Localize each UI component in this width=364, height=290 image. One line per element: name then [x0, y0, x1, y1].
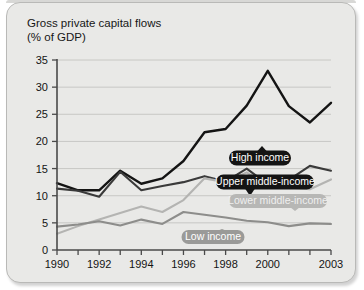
y-tick-label: 35: [36, 54, 48, 66]
y-tick-label: 10: [36, 190, 48, 202]
callout-2: Lower middle-income: [228, 194, 328, 211]
callout-label: Upper middle-income: [215, 175, 315, 187]
callout-label: Lower middle-income: [228, 194, 328, 206]
callout-label: Low income: [185, 230, 241, 242]
y-tick-label: 20: [36, 135, 48, 147]
y-tick-label: 0: [42, 244, 48, 256]
figure-root: Gross private capital flows (% of GDP) 0…: [0, 0, 364, 290]
x-tick-label: 2000: [256, 258, 280, 270]
x-tick-label: 1992: [87, 258, 111, 270]
x-tick-labels: 1990199219941996199820002003: [45, 258, 343, 270]
y-tick-labels: 05101520253035: [36, 54, 48, 256]
callout-0: High income: [229, 146, 291, 166]
y-tick-label: 30: [36, 81, 48, 93]
line-chart: 05101520253035 1990199219941996199820002…: [0, 0, 364, 290]
y-tick-label: 15: [36, 163, 48, 175]
x-tick-label: 2003: [319, 258, 343, 270]
y-tick-label: 5: [42, 217, 48, 229]
series-callouts: High incomeUpper middle-incomeLower midd…: [182, 146, 329, 244]
series-lines: [57, 71, 331, 234]
y-tick-label: 25: [36, 108, 48, 120]
callout-1: Upper middle-income: [215, 175, 315, 197]
x-tick-label: 1998: [213, 258, 237, 270]
series-line-0: [57, 71, 331, 190]
x-tick-label: 1996: [171, 258, 195, 270]
callout-3: Low income: [182, 229, 245, 244]
callout-label: High income: [231, 151, 290, 163]
x-tick-label: 1994: [129, 258, 153, 270]
x-tick-label: 1990: [45, 258, 69, 270]
